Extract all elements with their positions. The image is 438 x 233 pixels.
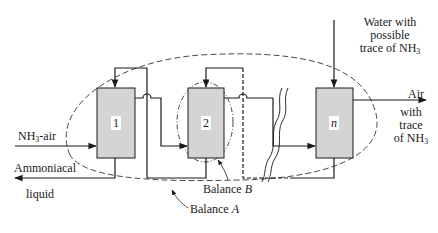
water-in-label: Water with possible trace of NH3 xyxy=(340,16,438,55)
break-symbol-2 xyxy=(268,88,288,182)
balance-a-label: Balance A xyxy=(190,203,239,216)
gas-in-label: NH3-air xyxy=(18,130,56,143)
unit2-liquid-out xyxy=(147,158,206,178)
break-symbol xyxy=(262,88,282,182)
balance-b-pointer xyxy=(218,160,228,180)
unit-2-label: 2 xyxy=(201,116,211,130)
unit-1-label: 1 xyxy=(111,116,121,130)
liquid-out-label-line1: Ammoniacal xyxy=(14,162,76,175)
gas-unit2-out xyxy=(224,94,273,98)
balance-b-label: Balance B xyxy=(203,183,252,196)
air-out-label: Air xyxy=(395,88,437,101)
unit-n-label: n xyxy=(329,116,339,130)
liquid-to-unit2-solid xyxy=(206,68,243,87)
air-out-trace-label: with trace of NH3 xyxy=(385,106,437,145)
balance-a-pointer xyxy=(172,190,188,208)
liquid-out-label-line2: liquid xyxy=(26,188,54,201)
